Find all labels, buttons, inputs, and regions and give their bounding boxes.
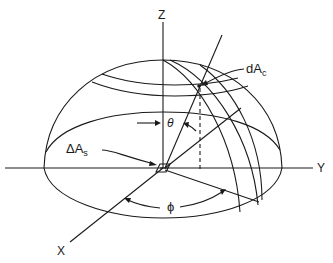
phi-label: ϕ — [167, 200, 174, 213]
dAs-subscript: s — [83, 148, 88, 158]
x-axis-line — [70, 168, 163, 242]
dAs-label: ΔAs — [66, 142, 88, 155]
dAs-arrowhead — [149, 161, 157, 166]
dAc-label: dAc — [246, 62, 266, 75]
z-axis-label: Z — [158, 9, 165, 21]
hemisphere-diagram: Z Y X θ ϕ dAc ΔAs — [0, 0, 333, 263]
phi-arrowhead-right — [220, 189, 226, 195]
dAc-main: dA — [246, 61, 262, 76]
phi-arc-left — [128, 200, 160, 208]
dAc-subscript: c — [262, 68, 267, 78]
inclined-ray — [165, 108, 241, 168]
dAs-leader — [102, 150, 154, 164]
x-axis-label: X — [57, 245, 65, 257]
theta-label: θ — [167, 117, 174, 129]
dAc-patch — [197, 84, 201, 88]
theta-arrow-right — [188, 125, 196, 131]
y-axis-label: Y — [317, 162, 325, 174]
theta-arrowhead-left — [155, 120, 161, 126]
dAs-main: ΔA — [66, 141, 83, 156]
base-ellipse-front — [44, 168, 282, 218]
ray-to-dAc — [165, 35, 222, 168]
dAc-leader — [204, 69, 244, 84]
phi-arc-right — [180, 192, 222, 207]
diagram-drawing — [0, 0, 333, 263]
phi-arrowhead-left — [124, 198, 131, 203]
meridian-2 — [170, 60, 258, 205]
